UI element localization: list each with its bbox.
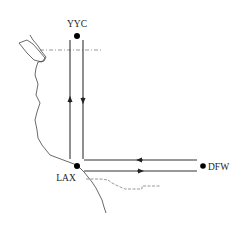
airport-yyc-dot	[74, 33, 80, 39]
airport-lax-dot	[74, 163, 80, 169]
coastline	[19, 35, 106, 213]
airport-dfw-dot	[200, 163, 206, 169]
border-us-mexico	[86, 179, 160, 189]
airport-lax-label: LAX	[56, 173, 76, 183]
airport-yyc-label: YYC	[67, 19, 87, 29]
airport-dfw-label: DFW	[208, 162, 229, 172]
route-map: YYC LAX DFW	[0, 0, 243, 234]
